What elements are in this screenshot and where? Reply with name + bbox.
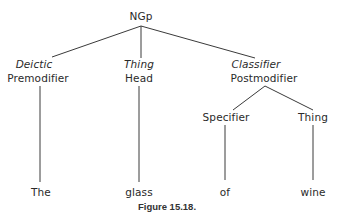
- node-head-function: Thing: [124, 58, 154, 71]
- node-ngp: NGp: [130, 10, 153, 23]
- edge-postmodifier-thing: [265, 86, 313, 110]
- node-postmodifier-role: Postmodifier: [231, 72, 298, 85]
- edge-ngp-postmodifier: [141, 26, 255, 58]
- node-premodifier-role: Premodifier: [7, 72, 68, 85]
- leaf-the: The: [31, 186, 51, 199]
- leaf-of: of: [220, 186, 230, 199]
- node-specifier: Specifier: [203, 111, 250, 124]
- tree-edges: [0, 0, 343, 219]
- node-thing: Thing: [298, 111, 328, 124]
- node-head-role: Head: [125, 72, 153, 85]
- leaf-glass: glass: [125, 186, 152, 199]
- leaf-wine: wine: [300, 186, 325, 199]
- node-postmodifier-function: Classifier: [232, 58, 281, 71]
- edge-ngp-premodifier: [52, 26, 141, 57]
- node-premodifier-function: Deictic: [16, 58, 53, 71]
- edge-postmodifier-specifier: [233, 86, 265, 110]
- figure-caption: Figure 15.18.: [138, 201, 196, 212]
